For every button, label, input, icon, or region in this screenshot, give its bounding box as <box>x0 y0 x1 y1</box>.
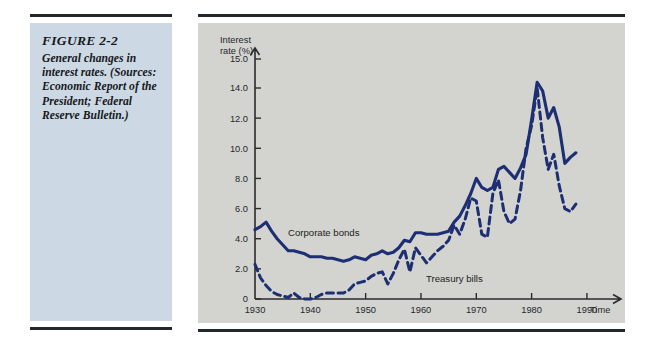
chart-column: 02.04.06.08.010.012.014.015.0 1930194019… <box>198 14 625 332</box>
x-tick-label: 1950 <box>355 305 376 315</box>
figure-number-label: FIGURE 2-2 <box>42 33 162 49</box>
x-tick-label: 1970 <box>466 305 487 315</box>
series-label-treasury-bills: Treasury bills <box>426 273 483 284</box>
y-tick-label: 2.0 <box>235 264 248 274</box>
x-tick-label: 1930 <box>245 305 266 315</box>
x-axis-title: Time <box>590 305 610 315</box>
y-axis-line <box>251 48 260 299</box>
y-axis-title-line1: Interest <box>220 35 251 45</box>
x-tick-label: 1940 <box>300 305 321 315</box>
x-tick-label: 1980 <box>521 305 542 315</box>
y-tick-label: 0 <box>243 294 248 304</box>
series-label-corporate-bonds: Corporate bonds <box>288 227 360 238</box>
x-tick-label: 1960 <box>411 305 432 315</box>
y-tick-label: 10.0 <box>230 144 248 154</box>
caption-rule-top <box>30 14 172 17</box>
chart-rule-bottom <box>198 329 625 332</box>
figure-2-2: FIGURE 2-2 General changes in interest r… <box>0 0 651 345</box>
interest-rate-line-chart: 02.04.06.08.010.012.014.015.0 1930194019… <box>198 23 625 323</box>
caption-column: FIGURE 2-2 General changes in interest r… <box>30 14 172 330</box>
caption-panel: FIGURE 2-2 General changes in interest r… <box>30 23 172 321</box>
chart-panel: 02.04.06.08.010.012.014.015.0 1930194019… <box>198 23 625 323</box>
y-tick-label: 12.0 <box>230 114 248 124</box>
chart-rule-top <box>198 14 625 17</box>
y-tick-label: 8.0 <box>235 174 248 184</box>
caption-rule-bottom <box>30 327 172 330</box>
y-tick-label: 4.0 <box>235 234 248 244</box>
y-tick-label: 6.0 <box>235 204 248 214</box>
y-tick-label: 14.0 <box>230 83 248 93</box>
figure-caption-text: General changes in interest rates. (Sour… <box>42 52 162 123</box>
series-treasury-bills-line <box>255 88 576 299</box>
y-axis-title-line2: rate (%) <box>220 46 253 56</box>
